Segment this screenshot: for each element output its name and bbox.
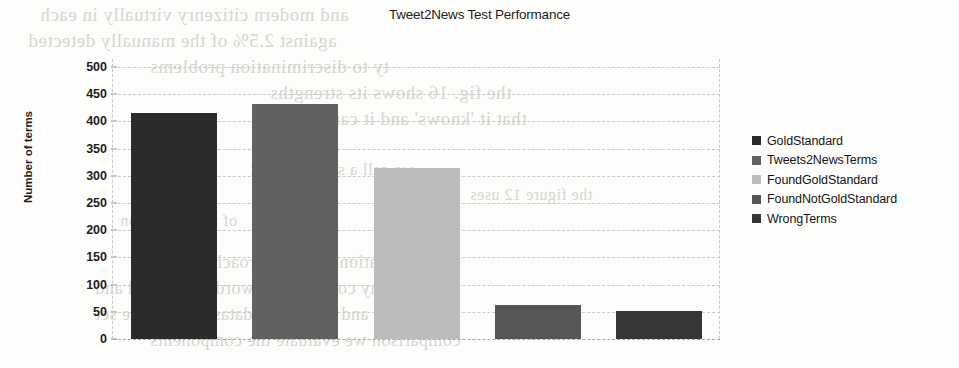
y-axis-tick-label: 100	[86, 278, 107, 292]
legend-color-swatch	[752, 175, 761, 184]
legend-item: GoldStandard	[752, 131, 897, 151]
y-axis-tick-label: 150	[86, 250, 107, 264]
legend-item: Tweets2NewsTerms	[752, 151, 897, 171]
y-axis-tick-label: 500	[86, 60, 107, 74]
plot-left-border	[112, 59, 113, 339]
plot-area	[113, 67, 720, 339]
gridline	[113, 67, 720, 68]
gridline	[113, 94, 720, 95]
legend-item: FoundNotGoldStandard	[752, 190, 897, 210]
y-axis-tick-label: 0	[100, 332, 107, 346]
gridline	[113, 339, 720, 340]
bar	[374, 168, 460, 339]
bar	[252, 104, 338, 339]
legend-item: WrongTerms	[752, 209, 897, 229]
y-axis-tick-label: 400	[86, 114, 107, 128]
y-axis-tick-label: 200	[86, 223, 107, 237]
legend-item: FoundGoldStandard	[752, 170, 897, 190]
bar	[495, 305, 581, 339]
y-axis-tick-label: 250	[86, 196, 107, 210]
chart-legend: GoldStandardTweets2NewsTermsFoundGoldSta…	[752, 131, 897, 229]
bar	[131, 113, 217, 339]
legend-color-swatch	[752, 156, 761, 165]
legend-item-label: Tweets2NewsTerms	[767, 153, 877, 167]
y-axis-tick-label: 50	[93, 305, 107, 319]
legend-item-label: GoldStandard	[767, 134, 843, 148]
bar	[616, 311, 702, 339]
legend-color-swatch	[752, 136, 761, 145]
y-axis: 050100150200250300350400450500	[55, 60, 107, 346]
y-axis-tick-label: 450	[86, 87, 107, 101]
y-axis-tick-label: 300	[86, 169, 107, 183]
legend-item-label: FoundGoldStandard	[767, 173, 878, 187]
chart-title: Tweet2News Test Performance	[0, 7, 959, 22]
legend-color-swatch	[752, 195, 761, 204]
legend-item-label: WrongTerms	[767, 212, 837, 226]
y-axis-label: Number of terms	[22, 111, 34, 203]
y-axis-tick-label: 350	[86, 142, 107, 156]
legend-color-swatch	[752, 214, 761, 223]
legend-item-label: FoundNotGoldStandard	[767, 192, 897, 206]
plot-right-border	[719, 59, 720, 339]
bar-chart: Tweet2News Test Performance Number of te…	[0, 0, 959, 368]
